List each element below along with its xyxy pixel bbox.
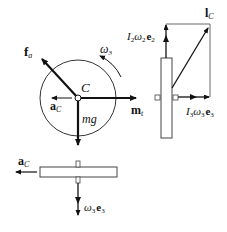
- mg-label: mg: [82, 112, 97, 126]
- aC-label: aC: [50, 99, 62, 114]
- disk-side-view: [155, 24, 210, 138]
- I2w2e2-label: I2ω2e2: [126, 30, 155, 44]
- omega3-label: ω3: [100, 42, 112, 57]
- center-label: C: [81, 80, 90, 95]
- omega3-rotation-arrow: [100, 56, 121, 77]
- mt-label: mt: [131, 103, 144, 118]
- fa-label: fa: [24, 44, 32, 60]
- diagram-canvas: fa ω3 C aC mt mg lC I2ω2e2 I3ω3e3 aC ω3e…: [0, 0, 227, 232]
- center-point: [75, 95, 81, 101]
- bottom-aC-label: aC: [18, 154, 30, 169]
- lC-arrow: [172, 28, 208, 88]
- I3w3e3-label: I3ω3e3: [185, 105, 214, 119]
- w3e3-label: ω3e3: [84, 201, 105, 215]
- lC-label: lC: [205, 6, 214, 21]
